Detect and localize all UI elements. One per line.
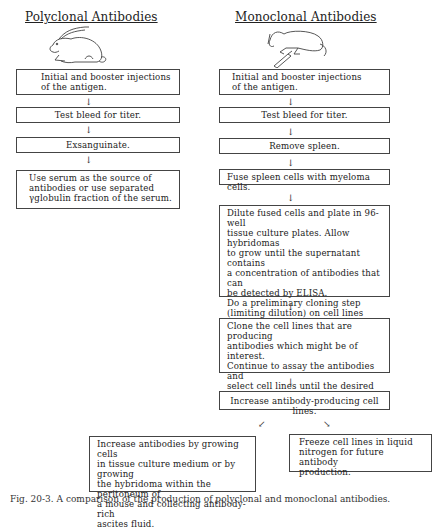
poly-step-exsanguinate: Exsanguinate. xyxy=(16,137,180,153)
arrow-down-icon: ↓ xyxy=(85,126,93,135)
mono-step-clone-cell-lines: Clone the cell lines that are producing … xyxy=(219,318,390,373)
figure-caption: Fig. 20-3. A comparison of the productio… xyxy=(10,494,390,504)
arrow-down-icon: ↓ xyxy=(287,98,295,107)
arrow-down-icon: ↓ xyxy=(85,98,93,107)
arrow-down-icon: ↓ xyxy=(287,128,295,137)
poly-step-test-bleed: Test bleed for titer. xyxy=(16,107,180,123)
mono-step-test-bleed: Test bleed for titer. xyxy=(219,107,390,123)
branch-increase-antibodies: Increase antibodies by growing cells in … xyxy=(89,436,256,492)
mono-step-fuse-cells: Fuse spleen cells with myeloma cells. xyxy=(219,169,390,185)
branch-freeze-cell-lines: Freeze cell lines in liquid nitrogen for… xyxy=(289,434,432,472)
polyclonal-title: Polyclonal Antibodies xyxy=(25,10,158,24)
poly-step-use-serum: Use serum as the source of antibodies or… xyxy=(16,170,180,209)
mouse-with-syringe-icon xyxy=(264,26,334,68)
rabbit-icon xyxy=(45,25,115,67)
arrow-down-right-icon: ↘ xyxy=(323,420,331,429)
arrow-down-icon: ↓ xyxy=(287,194,295,203)
arrow-down-left-icon: ↙ xyxy=(258,420,266,429)
arrow-down-icon: ↓ xyxy=(287,378,295,387)
arrow-down-icon: ↓ xyxy=(85,156,93,165)
mono-step-remove-spleen: Remove spleen. xyxy=(219,138,390,154)
arrow-down-icon: ↓ xyxy=(287,303,295,312)
arrow-down-icon: ↓ xyxy=(287,159,295,168)
poly-step-injections: Initial and booster injections of the an… xyxy=(16,69,180,95)
monoclonal-title: Monoclonal Antibodies xyxy=(235,10,377,24)
mono-step-injections: Initial and booster injections of the an… xyxy=(219,69,390,95)
mono-step-increase-cell-lines: Increase antibody-producing cell lines. xyxy=(219,391,390,410)
mono-step-dilute-and-plate: Dilute fused cells and plate in 96-well … xyxy=(219,205,390,297)
